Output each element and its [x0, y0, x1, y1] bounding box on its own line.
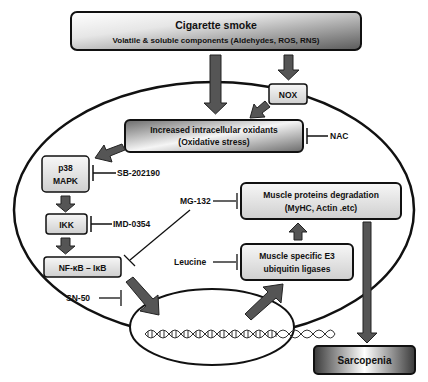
mapk-label: MAPK	[53, 176, 79, 186]
cigarette-smoke-components: Volatile & soluble components (Aldehydes…	[113, 36, 320, 45]
cigarette-smoke-box: Cigarette smoke Volatile & soluble compo…	[71, 12, 361, 50]
oxidants-box: Increased intracellular oxidants (Oxidat…	[125, 120, 303, 152]
cigarette-smoke-title: Cigarette smoke	[175, 19, 257, 31]
oxidants-title: Increased intracellular oxidants	[150, 125, 278, 135]
e3-subtitle: ubiquitin ligases	[263, 264, 330, 274]
arrow-smoke-to-nox	[278, 55, 299, 80]
arrow-nox-to-oxidants	[250, 101, 270, 118]
arrow-e3-to-degradation	[289, 223, 307, 240]
oxidants-subtitle: (Oxidative stress)	[178, 137, 250, 147]
ikk-label: IKK	[59, 220, 75, 230]
e3-title: Muscle specific E3	[259, 251, 335, 261]
nfkb-ikb-label: NF-κB – IκB	[59, 263, 107, 273]
sn50-label: SN-50	[66, 293, 90, 303]
ikk-box: IKK	[46, 214, 87, 234]
nfkb-ikb-box: NF-κB – IκB	[44, 257, 121, 277]
sarcopenia-label: Sarcopenia	[338, 355, 392, 366]
arrow-oxidants-to-p38	[95, 144, 125, 162]
imd0354-inhibition	[91, 216, 112, 232]
leucine-label: Leucine	[174, 257, 206, 267]
nox-box: NOX	[269, 84, 307, 104]
degradation-title: Muscle proteins degradation	[263, 190, 379, 200]
nox-label: NOX	[279, 90, 298, 100]
arrow-ikk-to-nfkb	[56, 238, 75, 254]
p38-mapk-box: p38 MAPK	[42, 156, 89, 192]
p38-label: p38	[58, 163, 73, 173]
muscle-protein-degradation-box: Muscle proteins degradation (MyHC, Actin…	[241, 183, 401, 219]
leucine-inhibition	[213, 254, 237, 270]
arrow-p38-to-ikk	[56, 196, 75, 212]
mg132-label: MG-132	[180, 196, 211, 206]
arrow-nfkb-to-nucleus	[126, 277, 159, 315]
sb202190-inhibition	[93, 165, 116, 181]
pathway-diagram: Cigarette smoke Volatile & soluble compo…	[0, 0, 428, 382]
sn50-inhibition	[99, 290, 121, 306]
nac-label: NAC	[330, 131, 348, 141]
arrow-degradation-to-sarcopenia	[357, 222, 377, 343]
degradation-subtitle: (MyHC, Actin .etc)	[285, 203, 358, 213]
e3-ligases-box: Muscle specific E3 ubiquitin ligases	[241, 244, 353, 280]
sarcopenia-box: Sarcopenia	[314, 346, 415, 374]
imd0354-label: IMD-0354	[113, 219, 151, 229]
nac-inhibition	[307, 128, 328, 144]
sb202190-label: SB-202190	[117, 168, 160, 178]
arrow-smoke-to-oxidants	[204, 55, 227, 114]
